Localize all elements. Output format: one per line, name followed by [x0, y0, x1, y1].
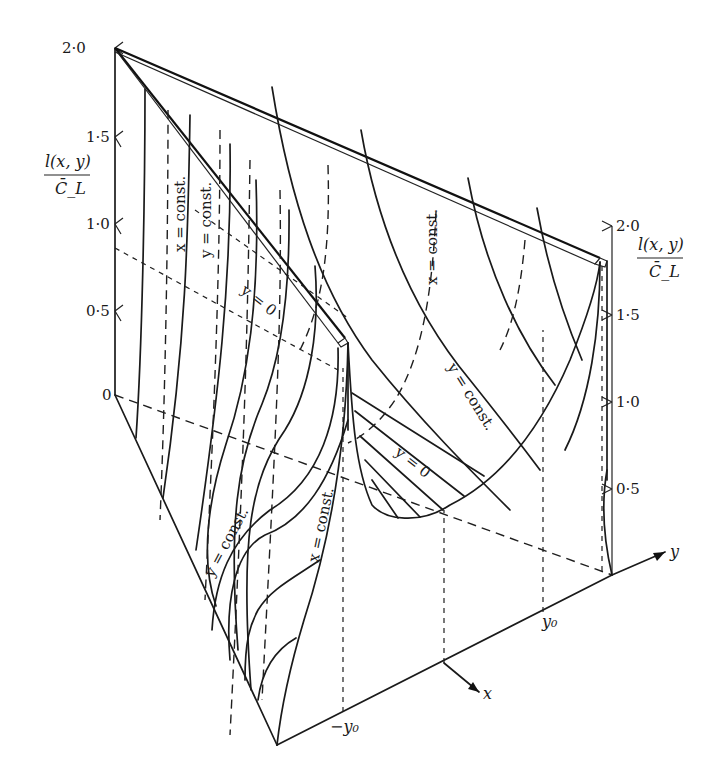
x-axis-label: x [483, 684, 492, 703]
pos-y0-label: y₀ [541, 612, 558, 631]
curve-labels: x = const. y = const. y = 0 x = const. y… [171, 176, 499, 581]
left-axis-label-denominator: C̄_L [55, 177, 86, 198]
left-axis: 2·0 1·5 1·0 0·5 0 l(x, y) C̄_L [44, 39, 123, 404]
left-section-dashed [115, 110, 348, 735]
left-tick-1-0: 1·0 [86, 215, 110, 233]
right-axis: 2·0 1·5 1·0 0·5 l(x, y) C̄_L [602, 217, 684, 575]
surface-rim [115, 48, 607, 575]
label-right-y-zero: y = 0 [391, 442, 434, 482]
label-right-x-const: x = const. [423, 209, 441, 285]
left-tick-0-5: 0·5 [86, 302, 110, 320]
right-axis-label-denominator: C̄_L [649, 260, 680, 281]
right-tick-0-5: 0·5 [616, 480, 640, 498]
right-tick-1-0: 1·0 [616, 393, 640, 411]
left-tick-1-5: 1·5 [86, 128, 110, 146]
left-tick-2-0: 2·0 [62, 39, 86, 57]
neg-y0-label: −y₀ [330, 717, 359, 736]
label-lower-x-const: x = const. [304, 486, 337, 564]
right-section-dashed [300, 165, 525, 443]
y-axis-arrowhead [653, 552, 665, 561]
y-axis-label: y [669, 542, 680, 561]
label-left-x-const: x = const. [171, 176, 189, 252]
left-axis-label-numerator: l(x, y) [45, 152, 91, 171]
figure-svg: 2·0 1·5 1·0 0·5 0 l(x, y) C̄_L 2·0 1·5 1… [0, 0, 718, 782]
base-plane: y x −y₀ y₀ [115, 330, 680, 745]
left-tick-0: 0 [102, 386, 112, 404]
label-left-y-const: y = const. [197, 182, 215, 259]
right-axis-label-numerator: l(x, y) [638, 235, 684, 254]
right-tick-1-5: 1·5 [616, 306, 640, 324]
lift-distribution-figure: 2·0 1·5 1·0 0·5 0 l(x, y) C̄_L 2·0 1·5 1… [0, 0, 718, 782]
right-tick-2-0: 2·0 [616, 217, 640, 235]
label-mid-y-zero: y = 0 [237, 280, 280, 320]
label-right-y-const: y = const. [443, 359, 499, 434]
